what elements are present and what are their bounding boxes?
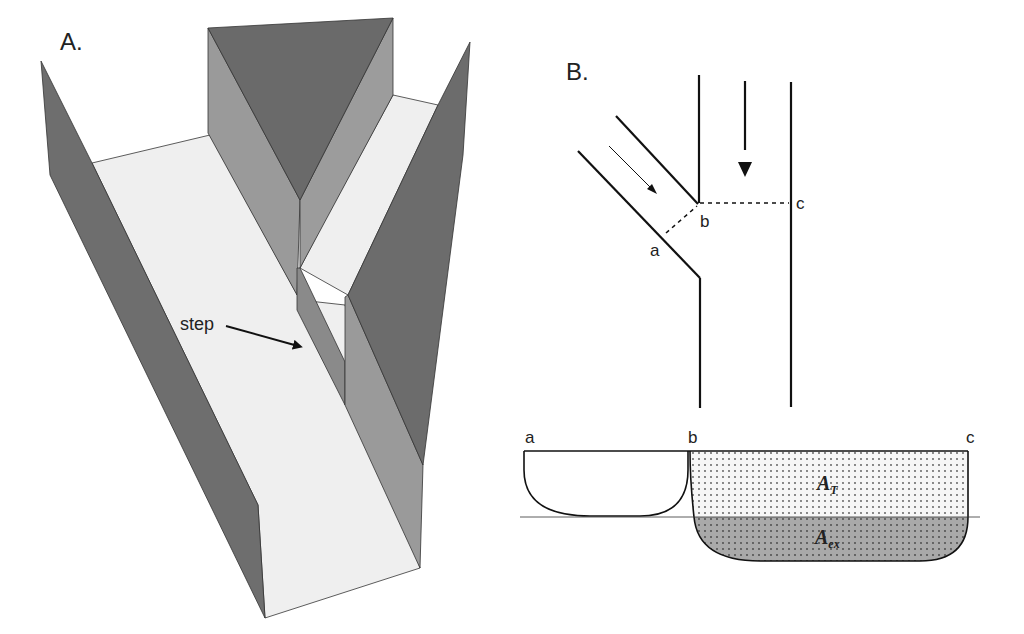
main-flow-arrowhead [738,162,752,177]
panel-a: A. step [41,18,470,618]
section-line-ab [666,206,697,233]
plan-point-b: b [700,212,709,231]
plan-point-a: a [650,241,660,260]
tributary-upper-wall [616,116,698,204]
panel-b-label: B. [566,58,589,85]
panel-b: B. a b c a b c [520,58,980,561]
section-point-c: c [966,428,975,447]
plan-point-c: c [796,194,805,213]
confluence-figure: A. step B. [0,0,1024,634]
panel-a-label: A. [60,28,83,55]
tributary-cross-section [524,451,688,516]
tributary-lower-wall [578,151,700,278]
section-point-b: b [688,428,697,447]
step-label: step [180,314,214,334]
section-point-a: a [525,428,535,447]
tributary-flow-arrow [609,146,654,191]
